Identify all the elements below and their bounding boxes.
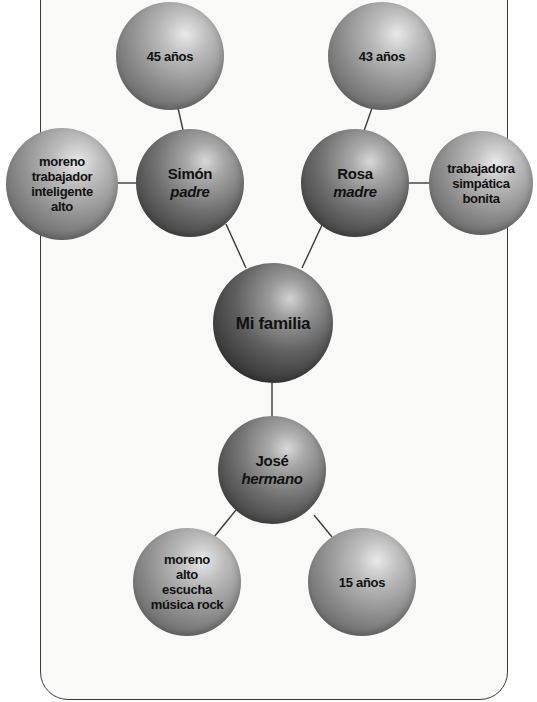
trait: alto — [51, 199, 73, 214]
node-center: Mi familia — [213, 263, 333, 383]
link-mother-center — [302, 225, 322, 268]
node-role: hermano — [241, 470, 302, 488]
node-label: 15 años — [339, 575, 385, 590]
node-name: José — [256, 452, 289, 470]
node-mother-traits: trabajadora simpática bonita — [429, 131, 533, 235]
trait: moreno — [39, 154, 85, 169]
link-mother-age — [364, 108, 372, 131]
center-label: Mi familia — [236, 316, 310, 331]
trait: simpática — [452, 176, 509, 191]
link-father-age — [178, 108, 183, 130]
node-father-traits: moreno trabajador inteligente alto — [6, 128, 118, 240]
link-father-center — [226, 224, 246, 268]
node-role: padre — [170, 183, 209, 201]
trait: música rock — [151, 597, 224, 612]
node-brother-traits: moreno alto escucha música rock — [133, 528, 241, 636]
trait: trabajador — [32, 169, 93, 184]
trait: trabajadora — [447, 161, 515, 176]
trait: alto — [176, 567, 198, 582]
node-name: Simón — [168, 165, 212, 183]
link-brother-traits — [214, 510, 236, 537]
trait: bonita — [462, 191, 499, 206]
node-father-age: 45 años — [116, 2, 224, 110]
node-label: 43 años — [359, 49, 405, 64]
node-mother: Rosa madre — [301, 129, 409, 237]
link-brother-age — [314, 515, 332, 537]
node-role: madre — [333, 183, 377, 201]
node-father: Simón padre — [136, 129, 244, 237]
trait: moreno — [164, 552, 210, 567]
trait: inteligente — [31, 184, 93, 199]
node-brother-age: 15 años — [308, 528, 416, 636]
trait: escucha — [162, 582, 212, 597]
node-mother-age: 43 años — [328, 2, 436, 110]
node-name: Rosa — [337, 165, 372, 183]
node-label: 45 años — [147, 49, 193, 64]
node-brother: José hermano — [218, 416, 326, 524]
